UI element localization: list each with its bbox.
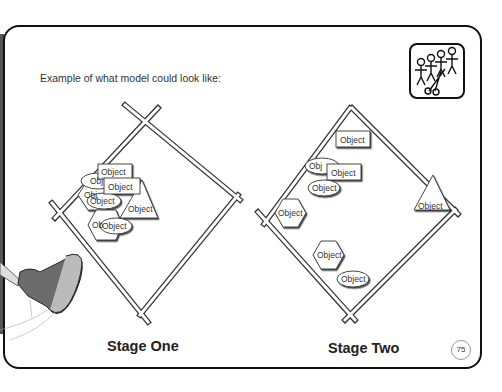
- svg-text:Object: Object: [312, 183, 337, 193]
- model-diagrams: Obj Obj Object Ob Object Object Object O…: [0, 0, 502, 392]
- page-number: 75: [451, 340, 471, 360]
- svg-text:Obj: Obj: [309, 161, 322, 171]
- svg-text:Object: Object: [317, 250, 342, 260]
- svg-text:Object: Object: [418, 201, 443, 211]
- svg-text:Object: Object: [108, 182, 133, 192]
- stage-two-label: Stage Two: [328, 340, 399, 356]
- stage-one-label: Stage One: [107, 338, 179, 354]
- kicking-boot-icon: [0, 254, 82, 340]
- svg-text:Object: Object: [102, 221, 127, 231]
- svg-text:Object: Object: [90, 196, 115, 206]
- svg-text:Object: Object: [340, 135, 365, 145]
- svg-text:Object: Object: [331, 168, 356, 178]
- svg-text:Object: Object: [278, 208, 303, 218]
- svg-text:Obj: Obj: [90, 176, 103, 186]
- svg-text:Object: Object: [128, 204, 153, 214]
- svg-text:Object: Object: [341, 274, 366, 284]
- svg-text:Object: Object: [101, 167, 126, 177]
